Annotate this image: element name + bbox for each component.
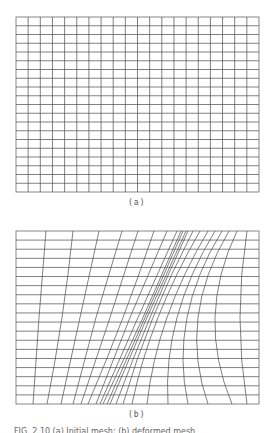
- figure-caption: FIG. 2.10 (a) Initial mesh; (b) deformed…: [14, 427, 264, 433]
- panel-b-label: (b): [128, 410, 145, 419]
- deformed-mesh-plot: [0, 0, 273, 433]
